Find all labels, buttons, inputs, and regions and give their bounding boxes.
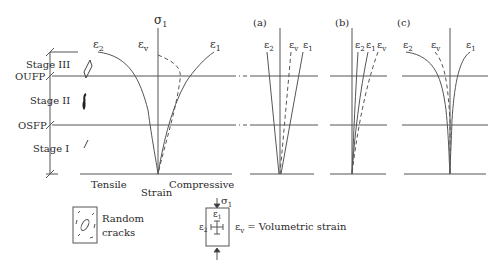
osfp-label: OSFP: [18, 120, 47, 131]
svg-text:εv: εv: [377, 39, 386, 53]
curve-e1: [158, 52, 214, 174]
svg-text:cracks: cracks: [102, 227, 135, 238]
svg-text:εv= Volumetric strain: εv= Volumetric strain: [235, 221, 347, 235]
curve-e2: [98, 52, 158, 174]
svg-text:ε2: ε2: [93, 38, 104, 53]
svg-text:σ1: σ1: [221, 195, 232, 209]
svg-text:ε2: ε2: [264, 39, 274, 53]
svg-text:Random: Random: [102, 213, 145, 224]
svg-text:ε1: ε1: [213, 209, 222, 220]
cracks-specimen: [73, 207, 97, 243]
svg-text:(a): (a): [253, 17, 267, 28]
svg-text:εv: εv: [138, 38, 149, 53]
tensile-label: Tensile: [91, 179, 127, 190]
svg-text:(c): (c): [397, 17, 411, 28]
compressive-label: Compressive: [169, 179, 234, 190]
svg-text:ε2: ε2: [355, 39, 365, 53]
stage-iii-label: Stage III: [26, 59, 70, 70]
svg-text:ε2: ε2: [403, 39, 413, 53]
svg-text:ε1: ε1: [303, 39, 313, 53]
svg-text:εv: εv: [289, 39, 298, 53]
stress-strain-diagram: σ1 ε2 εv ε1 Stage III Stage II Stage I O…: [0, 0, 502, 272]
stage-i-label: Stage I: [33, 143, 69, 154]
svg-text:εv: εv: [431, 39, 440, 53]
svg-text:(b): (b): [335, 17, 349, 28]
svg-text:ε1: ε1: [466, 39, 476, 53]
svg-text:σ1: σ1: [154, 13, 167, 29]
oufp-label: OUFP: [15, 71, 46, 82]
svg-text:ε1: ε1: [210, 38, 221, 53]
svg-text:ε1: ε1: [366, 39, 376, 53]
stage-ii-label: Stage II: [30, 95, 70, 106]
